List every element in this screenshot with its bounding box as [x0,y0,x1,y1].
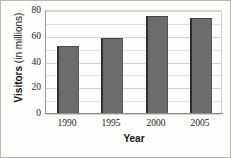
x-axis-title: Year [45,133,223,144]
x-axis-tick-label: 2000 [133,118,179,128]
y-axis-tick-label: 80 [3,5,41,15]
bar [190,18,212,113]
y-axis-tick-label: 20 [3,82,41,92]
x-axis-tick-label: 1990 [44,118,90,128]
gridline [46,114,221,115]
x-axis-tick-label: 2005 [177,118,223,128]
bar [146,16,168,113]
bar [101,38,123,113]
y-axis-tick-label: 40 [3,57,41,67]
figure-border-right [230,0,231,158]
bar-chart-figure: Visitors (in millions) 806040200 1990199… [0,0,231,158]
y-axis-tick-label: 0 [3,108,41,118]
bar [57,46,79,113]
plot-area [45,10,222,113]
x-axis-tick-label: 1995 [88,118,134,128]
y-axis-tick-labels: 806040200 [0,0,41,158]
gridline [46,11,221,12]
x-axis-line [45,113,223,114]
y-axis-tick-label: 60 [3,31,41,41]
